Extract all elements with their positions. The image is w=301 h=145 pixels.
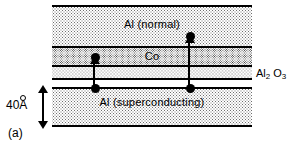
boundary-sc-top [52,87,252,89]
callout-aluminium-oxide: Al2 O3 [256,68,286,79]
film-stack: Al (normal) Co Al (superconducting) [52,6,252,126]
scale-value: 40 [6,98,19,112]
boundary-co-bottom [52,65,252,67]
callout-element-o: O [273,67,282,79]
callout-subscript-2: 2 [266,72,270,81]
scale-arrow-head-down-icon [38,121,48,129]
layer-label-al-superconducting: Al (superconducting) [52,97,252,108]
boundary-co-top [52,46,252,48]
callout-element-al: Al [256,67,266,79]
layer-label-al-normal: Al (normal) [52,19,252,30]
panel-label: (a) [8,127,23,139]
figure-panel: Al (normal) Co Al (superconducting) [0,0,301,145]
layer-label-cobalt: Co [52,51,252,62]
angstrom-unit-icon: A [19,99,27,111]
electron-dot-upper [186,32,195,41]
boundary-oxide-bottom [52,78,252,80]
arrow-shaft [188,41,190,89]
electron-dot-lower [91,84,100,93]
scale-label: 40A [6,99,27,111]
callout-subscript-3: 3 [282,72,286,81]
boundary-bottom [52,125,252,127]
electron-dot-upper [91,53,100,62]
boundary-top [52,5,252,7]
electron-dot-lower [186,84,195,93]
